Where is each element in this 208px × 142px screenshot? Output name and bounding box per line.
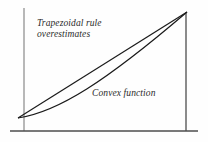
label-trapezoidal-rule: Trapezoidal rule overestimates xyxy=(37,18,102,39)
label-convex-function: Convex function xyxy=(92,88,156,99)
label-trapezoidal-rule-line2: overestimates xyxy=(37,29,102,40)
convex-function-diagram: Trapezoidal rule overestimates Convex fu… xyxy=(0,0,208,142)
label-trapezoidal-rule-line1: Trapezoidal rule xyxy=(37,18,102,28)
diagram-canvas xyxy=(0,0,208,142)
